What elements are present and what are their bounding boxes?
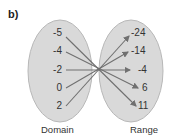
domain-label: Domain (41, 124, 74, 135)
range-value: -4 (138, 64, 147, 75)
domain-value: 0 (42, 82, 62, 93)
domain-value: -5 (42, 27, 62, 38)
range-value: 11 (138, 100, 148, 111)
range-value: 6 (142, 82, 148, 93)
domain-value: 2 (42, 100, 62, 111)
range-label: Range (130, 124, 158, 135)
mapping-diagram (0, 0, 176, 138)
domain-value: -4 (42, 45, 62, 56)
domain-value: -2 (42, 64, 62, 75)
range-value: -14 (131, 45, 145, 56)
range-value: -24 (131, 27, 145, 38)
